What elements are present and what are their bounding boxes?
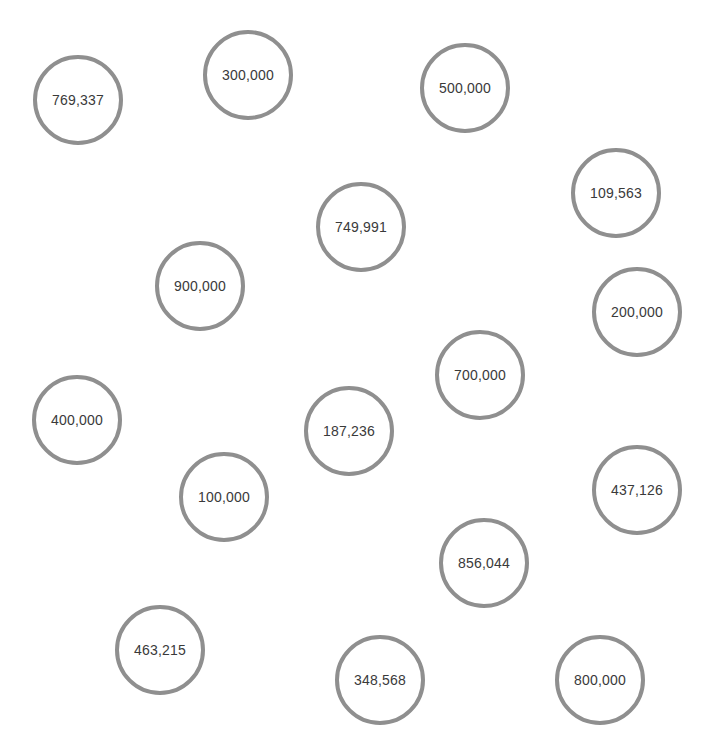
number-bubble-14[interactable]: 348,568 <box>335 635 425 725</box>
number-bubble-13[interactable]: 463,215 <box>115 605 205 695</box>
bubble-label: 109,563 <box>590 185 642 201</box>
bubble-label: 348,568 <box>354 672 406 688</box>
number-bubble-15[interactable]: 800,000 <box>555 635 645 725</box>
number-bubble-12[interactable]: 856,044 <box>439 518 529 608</box>
number-bubble-6[interactable]: 200,000 <box>592 267 682 357</box>
bubble-label: 700,000 <box>454 367 506 383</box>
number-bubble-7[interactable]: 700,000 <box>435 330 525 420</box>
bubble-label: 437,126 <box>611 482 663 498</box>
number-bubble-11[interactable]: 437,126 <box>592 445 682 535</box>
bubble-label: 500,000 <box>439 80 491 96</box>
bubble-label: 749,991 <box>335 219 387 235</box>
number-bubble-0[interactable]: 769,337 <box>33 55 123 145</box>
bubble-label: 900,000 <box>174 278 226 294</box>
bubble-label: 400,000 <box>51 412 103 428</box>
number-bubble-1[interactable]: 300,000 <box>203 30 293 120</box>
number-bubble-3[interactable]: 109,563 <box>571 148 661 238</box>
bubble-label: 463,215 <box>134 642 186 658</box>
bubble-label: 800,000 <box>574 672 626 688</box>
bubble-label: 856,044 <box>458 555 510 571</box>
number-bubble-4[interactable]: 749,991 <box>316 182 406 272</box>
bubble-canvas: 769,337 300,000 500,000 109,563 749,991 … <box>0 0 713 756</box>
bubble-label: 100,000 <box>198 489 250 505</box>
number-bubble-2[interactable]: 500,000 <box>420 43 510 133</box>
bubble-label: 200,000 <box>611 304 663 320</box>
number-bubble-5[interactable]: 900,000 <box>155 241 245 331</box>
number-bubble-8[interactable]: 400,000 <box>32 375 122 465</box>
bubble-label: 300,000 <box>222 67 274 83</box>
number-bubble-9[interactable]: 187,236 <box>304 386 394 476</box>
bubble-label: 769,337 <box>52 92 104 108</box>
bubble-label: 187,236 <box>323 423 375 439</box>
number-bubble-10[interactable]: 100,000 <box>179 452 269 542</box>
